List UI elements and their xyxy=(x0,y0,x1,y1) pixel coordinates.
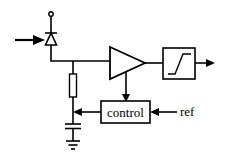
output-arrow xyxy=(195,59,215,67)
control-label: control xyxy=(107,105,144,120)
capacitor-icon xyxy=(65,124,81,141)
amp-to-control-arrow xyxy=(122,72,130,102)
signal-wire xyxy=(51,45,110,61)
resistor-icon xyxy=(70,74,77,97)
ref-label: ref xyxy=(180,104,195,119)
circuit-diagram: control ref xyxy=(0,0,226,162)
amplifier-icon xyxy=(110,47,145,79)
limiter-block xyxy=(163,48,195,79)
photodiode-icon xyxy=(45,33,57,45)
ground-icon xyxy=(66,141,80,149)
bias-terminal-icon xyxy=(49,12,53,16)
light-input-arrow xyxy=(15,35,45,45)
ref-arrow xyxy=(150,108,177,116)
control-to-node-arrow xyxy=(73,108,101,116)
